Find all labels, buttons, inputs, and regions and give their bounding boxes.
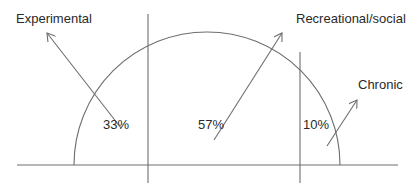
percent-experimental: 33% <box>103 117 129 132</box>
label-experimental: Experimental <box>16 11 92 26</box>
diagram-graphics <box>0 0 414 193</box>
percent-recreational: 57% <box>198 117 224 132</box>
arrow-recreational-icon <box>214 33 282 140</box>
percent-chronic: 10% <box>303 117 329 132</box>
label-chronic: Chronic <box>358 77 403 92</box>
diagram-canvas: Experimental Recreational/social Chronic… <box>0 0 414 193</box>
arrow-chronic-icon <box>327 100 357 146</box>
label-recreational: Recreational/social <box>296 11 406 26</box>
